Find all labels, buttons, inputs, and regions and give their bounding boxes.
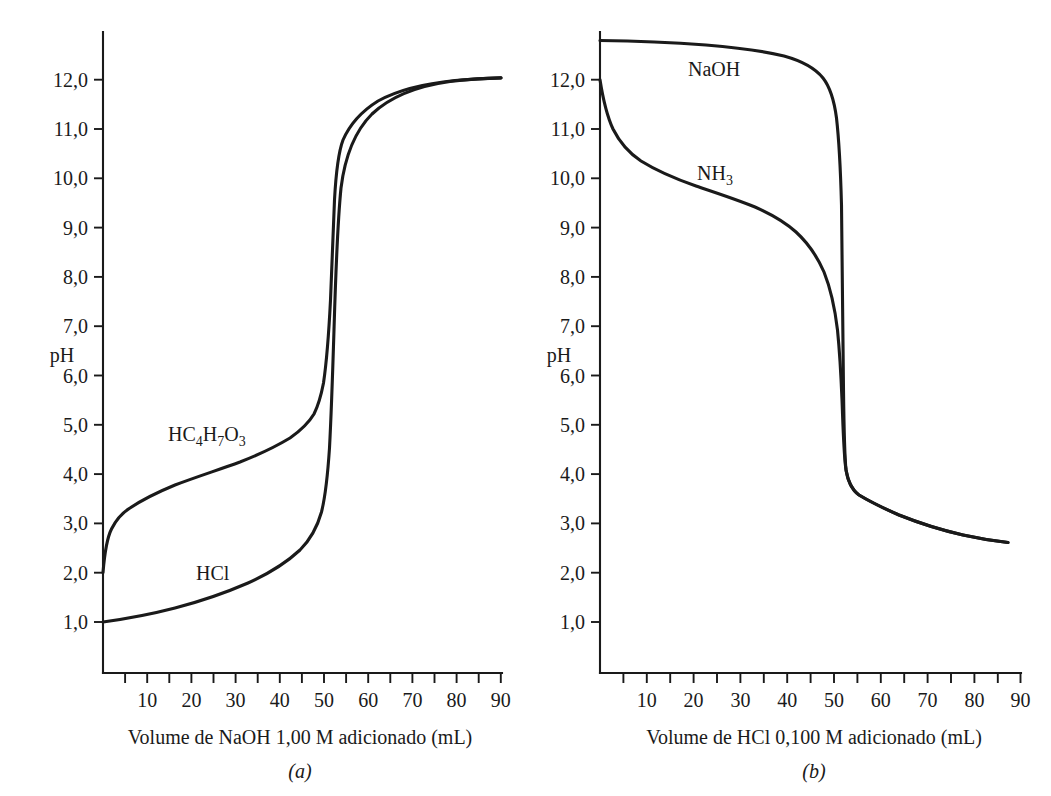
curve-label-hc4h7o3-part1: HC bbox=[168, 423, 196, 445]
y-tick-label-b-10: 10,0 bbox=[550, 167, 585, 189]
y-tick-label-b-1: 1,0 bbox=[560, 611, 585, 633]
curve-label-naoh: NaOH bbox=[688, 58, 740, 80]
y-tick-label-a-8: 8,0 bbox=[63, 266, 88, 288]
titration-figure: 1,0 2,0 3,0 4,0 5,0 6,0 7,0 8,0 9,0 10,0… bbox=[0, 0, 1051, 796]
y-tick-label-b-5: 5,0 bbox=[560, 414, 585, 436]
y-tick-label-a-11: 11,0 bbox=[54, 118, 88, 140]
x-tick-label-a-20: 20 bbox=[181, 689, 201, 711]
curve-label-nh3: NH3 bbox=[697, 162, 733, 188]
x-ticks-a bbox=[125, 673, 501, 683]
curve-hc4h7o3 bbox=[103, 78, 501, 573]
curve-label-hc4h7o3-sub1: 4 bbox=[196, 434, 203, 449]
curve-label-hc4h7o3-sub2: 7 bbox=[217, 434, 224, 449]
x-tick-label-a-90: 90 bbox=[491, 689, 511, 711]
y-ticks-a bbox=[94, 80, 103, 622]
y-tick-label-a-7: 7,0 bbox=[63, 315, 88, 337]
x-tick-label-a-40: 40 bbox=[270, 689, 290, 711]
y-tick-label-b-8: 8,0 bbox=[560, 266, 585, 288]
x-tick-label-b-70: 70 bbox=[918, 689, 938, 711]
x-tick-label-a-10: 10 bbox=[137, 689, 157, 711]
curve-label-nh3-sub1: 3 bbox=[726, 173, 733, 188]
y-tick-label-a-3: 3,0 bbox=[63, 512, 88, 534]
y-tick-label-a-5: 5,0 bbox=[63, 414, 88, 436]
panel-a-plot: 1,0 2,0 3,0 4,0 5,0 6,0 7,0 8,0 9,0 10,0… bbox=[0, 0, 530, 796]
x-tick-label-b-50: 50 bbox=[824, 689, 844, 711]
panel-a: 1,0 2,0 3,0 4,0 5,0 6,0 7,0 8,0 9,0 10,0… bbox=[0, 0, 530, 796]
y-tick-label-b-11: 11,0 bbox=[551, 118, 585, 140]
x-tick-label-b-10: 10 bbox=[637, 689, 657, 711]
curve-label-hc4h7o3: HC4H7O3 bbox=[168, 423, 246, 449]
y-axis-title-b: pH bbox=[547, 344, 571, 367]
panel-b: 1,0 2,0 3,0 4,0 5,0 6,0 7,0 8,0 9,0 10,0… bbox=[521, 0, 1051, 796]
y-tick-label-b-6: 6,0 bbox=[560, 365, 585, 387]
x-tick-label-b-40: 40 bbox=[777, 689, 797, 711]
x-axis-title-a: Volume de NaOH 1,00 M adicionado (mL) bbox=[128, 726, 473, 749]
y-tick-label-a-10: 10,0 bbox=[53, 167, 88, 189]
x-tick-label-a-60: 60 bbox=[358, 689, 378, 711]
x-tick-label-b-60: 60 bbox=[871, 689, 891, 711]
y-tick-label-a-1: 1,0 bbox=[63, 611, 88, 633]
y-tick-label-b-12: 12,0 bbox=[550, 69, 585, 91]
curve-hcl bbox=[103, 78, 501, 622]
x-tick-label-b-90: 90 bbox=[1011, 689, 1031, 711]
x-ticks-b bbox=[623, 673, 1020, 683]
curve-label-hc4h7o3-sub3: 3 bbox=[239, 434, 246, 449]
curve-label-hc4h7o3-part2: H bbox=[203, 423, 217, 445]
curve-label-nh3-part1: NH bbox=[697, 162, 726, 184]
panel-caption-a: (a) bbox=[288, 760, 312, 783]
x-axis-title-b: Volume de HCl 0,100 M adicionado (mL) bbox=[646, 726, 982, 749]
x-tick-label-a-80: 80 bbox=[447, 689, 467, 711]
y-tick-label-b-2: 2,0 bbox=[560, 562, 585, 584]
y-tick-label-a-4: 4,0 bbox=[63, 463, 88, 485]
y-tick-label-b-9: 9,0 bbox=[560, 217, 585, 239]
curve-label-hc4h7o3-part3: O bbox=[224, 423, 238, 445]
curve-naoh bbox=[600, 41, 1008, 543]
y-ticks-b bbox=[591, 80, 600, 622]
panel-b-plot: 1,0 2,0 3,0 4,0 5,0 6,0 7,0 8,0 9,0 10,0… bbox=[521, 0, 1051, 796]
x-tick-label-b-30: 30 bbox=[730, 689, 750, 711]
x-tick-label-a-50: 50 bbox=[314, 689, 334, 711]
panel-caption-b: (b) bbox=[802, 760, 826, 783]
y-tick-label-a-12: 12,0 bbox=[53, 69, 88, 91]
y-tick-label-b-3: 3,0 bbox=[560, 512, 585, 534]
y-tick-label-b-4: 4,0 bbox=[560, 463, 585, 485]
curve-nh3 bbox=[600, 80, 1008, 543]
curve-label-hcl: HCl bbox=[196, 562, 230, 584]
x-tick-label-a-70: 70 bbox=[402, 689, 422, 711]
y-tick-label-b-7: 7,0 bbox=[560, 315, 585, 337]
y-tick-label-a-6: 6,0 bbox=[63, 365, 88, 387]
x-tick-label-a-30: 30 bbox=[226, 689, 246, 711]
x-tick-label-b-80: 80 bbox=[964, 689, 984, 711]
y-axis-title-a: pH bbox=[50, 344, 74, 367]
y-tick-label-a-2: 2,0 bbox=[63, 562, 88, 584]
y-tick-label-a-9: 9,0 bbox=[63, 217, 88, 239]
x-tick-label-b-20: 20 bbox=[684, 689, 704, 711]
